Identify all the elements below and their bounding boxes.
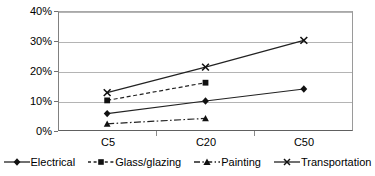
legend-marker-square-icon [88,156,114,168]
series-glass-glazing [104,80,208,104]
data-point-marker-diamond [104,110,111,117]
legend-item-painting[interactable]: Painting [194,156,261,168]
data-point-marker-square [104,98,110,104]
data-point-marker-x [300,37,307,44]
data-point-marker-diamond [202,97,209,104]
legend-item-transportation[interactable]: Transportation [274,156,372,168]
legend-label-electrical: Electrical [31,156,76,168]
chart-legend: Electrical Glass/glazing Painting Transp… [0,152,375,172]
legend-label-painting: Painting [221,156,261,168]
legend-marker-triangle-icon [194,156,220,168]
chart-container: 40% 30% 20% 10% 0% C5 C20 C50 Electrical [0,0,375,176]
series-painting [104,115,209,127]
legend-label-transportation: Transportation [301,156,372,168]
series-transportation [104,37,307,96]
legend-marker-x-icon [274,156,300,168]
series-line [107,118,205,123]
data-point-marker-square [203,80,209,86]
legend-item-electrical[interactable]: Electrical [4,156,76,168]
legend-item-glass-glazing[interactable]: Glass/glazing [88,156,181,168]
legend-marker-diamond-icon [4,156,30,168]
series-line [107,83,205,101]
series-electrical [104,85,307,117]
data-point-marker-diamond [300,85,307,92]
series-layer [0,0,375,176]
legend-label-glass-glazing: Glass/glazing [115,156,181,168]
